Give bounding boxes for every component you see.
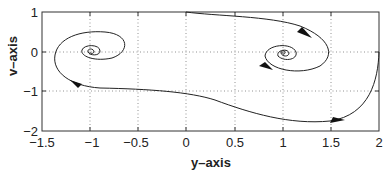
x-tick-label: 2	[375, 135, 382, 150]
x-axis-label: y–axis	[191, 155, 231, 170]
x-tick-label: 0.5	[226, 135, 244, 150]
y-tick-label: 1	[31, 5, 38, 20]
y-tick-label: 0	[31, 45, 38, 60]
x-tick-labels: −1.5 −1 −0.5 0 0.5 1 1.5 2	[29, 135, 382, 150]
arrow-icon	[259, 62, 273, 70]
trajectory-right-to-left-spiral	[55, 32, 379, 122]
y-tick-label: −1	[23, 84, 38, 99]
y-axis-label: v–axis	[5, 36, 20, 76]
x-tick-label: −0.5	[123, 135, 149, 150]
x-tick-label: 1	[279, 135, 286, 150]
y-tick-label: −2	[23, 124, 38, 139]
x-tick-label: −1	[85, 135, 100, 150]
phase-plane-chart: −1.5 −1 −0.5 0 0.5 1 1.5 2 1 0 −1 −2 y–a…	[0, 0, 389, 177]
arrow-icon	[70, 80, 82, 88]
grid-lines	[42, 12, 379, 131]
direction-arrows	[70, 27, 345, 123]
axes-box	[42, 12, 379, 131]
trajectory-top-to-right-spiral	[186, 12, 329, 71]
x-tick-label: 1.5	[322, 135, 340, 150]
y-tick-labels: 1 0 −1 −2	[23, 5, 38, 139]
x-tick-label: 0	[182, 135, 189, 150]
arrow-icon	[297, 27, 312, 38]
tick-marks	[42, 12, 379, 131]
